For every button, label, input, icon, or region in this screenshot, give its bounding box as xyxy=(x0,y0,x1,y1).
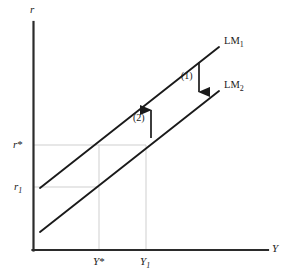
arrow-1-label: (1) xyxy=(181,71,193,81)
y-axis-label: r xyxy=(30,4,34,15)
curve-LM2 xyxy=(40,91,219,232)
tick-label-r-star: r* xyxy=(13,139,23,150)
curve-label-LM1-text: LM xyxy=(224,35,240,46)
curve-label-LM1-subscript: 1 xyxy=(240,40,244,49)
curve-LM1 xyxy=(40,47,219,188)
diagram-canvas xyxy=(0,0,292,280)
tick-label-Y-star-asterisk: * xyxy=(99,255,105,267)
tick-label-Y-one: Y1 xyxy=(140,256,150,270)
lm-curve-diagram: r Y r* r1 Y* Y1 LM1 LM2 (1) (2) xyxy=(0,0,292,280)
tick-label-r-one-subscript: 1 xyxy=(18,186,22,195)
tick-label-Y-star: Y* xyxy=(93,256,105,267)
tick-label-r-star-asterisk: * xyxy=(17,138,23,150)
tick-label-r-one: r1 xyxy=(14,181,22,195)
curve-label-LM2: LM2 xyxy=(224,80,244,93)
curve-label-LM1: LM1 xyxy=(224,36,244,49)
tick-label-Y-one-subscript: 1 xyxy=(146,261,150,270)
x-axis-label: Y xyxy=(272,243,278,254)
arrow-2-label: (2) xyxy=(133,113,145,123)
curve-label-LM2-text: LM xyxy=(224,79,240,90)
curve-label-LM2-subscript: 2 xyxy=(240,84,244,93)
